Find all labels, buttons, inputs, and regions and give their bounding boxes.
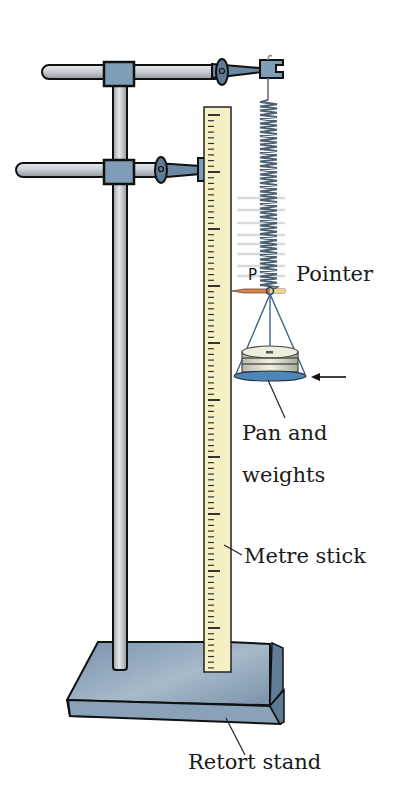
pan	[234, 371, 306, 381]
pan-label-line1: Pan and	[242, 423, 327, 444]
metre-stick	[204, 107, 231, 672]
diagram-stage: P Pointer Pan and weights Metre stick Re…	[0, 0, 410, 791]
spring	[260, 78, 277, 291]
weights	[242, 346, 298, 372]
lower-clamp	[16, 157, 219, 184]
metre-stick-label: Metre stick	[244, 546, 366, 567]
upper-clamp	[42, 56, 283, 87]
pan-leader-line	[268, 380, 285, 418]
pointer-letter-label: P	[248, 268, 257, 283]
pan-label-line2: weights	[242, 465, 325, 486]
retort-stand-base	[67, 642, 284, 724]
apparatus-drawing	[0, 0, 410, 791]
pointer	[232, 288, 285, 295]
arrow-icon	[311, 373, 346, 381]
retort-stand-label: Retort stand	[188, 752, 321, 773]
pointer-label: Pointer	[296, 264, 373, 285]
